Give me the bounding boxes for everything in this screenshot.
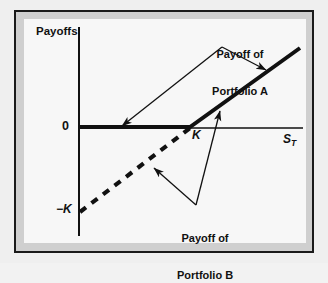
portfolio-b-payoff-line <box>80 128 190 212</box>
negative-strike-tick-label: −K <box>56 203 72 216</box>
annotation-portfolio-a-line2: Portfolio A <box>190 85 290 97</box>
strike-tick-label: K <box>192 129 201 142</box>
annotation-portfolio-a-line1: Payoff of <box>190 48 290 60</box>
origin-tick-label: 0 <box>62 119 69 133</box>
annotation-portfolio-b: Payoff of Portfolio B <box>155 207 255 283</box>
x-axis-label-main: S <box>283 132 291 146</box>
y-axis-label: Payoffs <box>36 25 78 38</box>
annotation-arrow-b-slope <box>196 111 220 205</box>
annotation-portfolio-b-line1: Payoff of <box>155 232 255 244</box>
x-axis-label-subscript: T <box>291 138 296 148</box>
annotation-portfolio-b-line2: Portfolio B <box>155 269 255 281</box>
annotation-portfolio-a: Payoff of Portfolio A <box>190 23 290 122</box>
x-axis-label: ST <box>283 133 296 149</box>
annotation-arrow-b-dashed <box>154 168 196 205</box>
